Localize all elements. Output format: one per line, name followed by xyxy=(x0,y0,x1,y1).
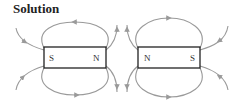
magnet-1-right-pole: N xyxy=(93,53,100,63)
diagram: Solution xyxy=(0,0,246,102)
pole-labels: S N N S xyxy=(0,0,246,102)
magnet-2-left-pole: N xyxy=(144,53,151,63)
magnet-2-right-pole: S xyxy=(190,53,195,63)
magnet-1-left-pole: S xyxy=(49,53,54,63)
